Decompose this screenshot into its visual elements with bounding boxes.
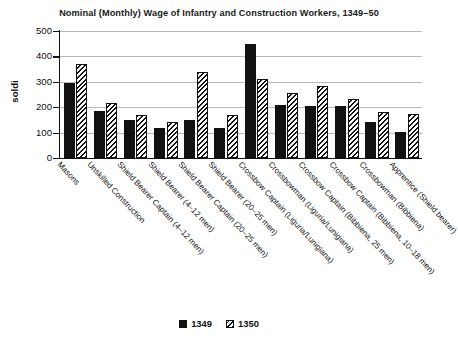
- bar-1349: [245, 44, 256, 158]
- y-tick-label: 500: [10, 26, 52, 36]
- y-tick-label: 400: [10, 51, 52, 61]
- bar-1349: [94, 111, 105, 158]
- bar-1350: [76, 64, 87, 158]
- bar-group: [184, 31, 214, 158]
- legend-label: 1349: [191, 318, 212, 329]
- x-tick-label: Masons: [55, 160, 81, 187]
- bar-1349: [154, 128, 165, 158]
- x-tick-label: Crossbow Captain (Bibbiena, 10–18 men): [327, 160, 436, 276]
- bar-1350: [348, 99, 359, 158]
- x-axis-tick-labels: MasonsUnskilled ConstructionShield Beare…: [0, 160, 438, 300]
- bar-1350: [257, 79, 268, 159]
- bar-1350: [378, 112, 389, 158]
- bar-group: [94, 31, 124, 158]
- y-tick-mark: [53, 31, 59, 32]
- bar-1350: [106, 103, 117, 158]
- bar-group: [64, 31, 94, 158]
- bar-1349: [335, 106, 346, 158]
- bar-1349: [124, 120, 135, 158]
- bar-1350: [408, 114, 419, 158]
- bar-group: [154, 31, 184, 158]
- bar-1349: [184, 120, 195, 158]
- chart-legend: 13491350: [0, 318, 438, 329]
- bar-1349: [395, 132, 406, 158]
- bar-1350: [197, 72, 208, 158]
- y-tick-label: 300: [10, 77, 52, 87]
- bar-1349: [365, 122, 376, 158]
- bar-1349: [64, 83, 75, 158]
- bar-group: [305, 31, 335, 158]
- y-tick-mark: [53, 133, 59, 134]
- legend-item: 1349: [179, 318, 212, 329]
- chart-title: Nominal (Monthly) Wage of Infantry and C…: [0, 8, 438, 18]
- bar-1349: [305, 106, 316, 158]
- x-tick-label: Unskilled Construction: [86, 160, 148, 225]
- bar-group: [335, 31, 365, 158]
- bar-1349: [214, 128, 225, 158]
- legend-swatch-1349: [179, 320, 187, 328]
- y-tick-mark: [53, 82, 59, 83]
- bar-1350: [136, 115, 147, 158]
- legend-label: 1350: [238, 318, 259, 329]
- y-tick-mark: [53, 56, 59, 57]
- bar-group: [245, 31, 275, 158]
- bar-group: [214, 31, 244, 158]
- bar-group: [365, 31, 395, 158]
- bar-group: [275, 31, 305, 158]
- bar-1350: [227, 115, 238, 158]
- y-tick-mark: [53, 107, 59, 108]
- bar-1350: [317, 86, 328, 158]
- bar-1350: [287, 93, 298, 158]
- plot-area: [60, 31, 422, 158]
- y-tick-mark: [53, 158, 59, 159]
- legend-item: 1350: [226, 318, 259, 329]
- bar-1350: [167, 122, 178, 158]
- y-tick-label: 200: [10, 102, 52, 112]
- bar-1349: [275, 105, 286, 158]
- bar-group: [124, 31, 154, 158]
- legend-swatch-1350: [226, 320, 234, 328]
- y-tick-label: 100: [10, 128, 52, 138]
- bar-group: [395, 31, 425, 158]
